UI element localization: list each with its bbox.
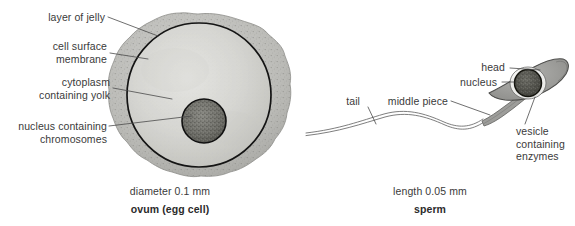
ovum-name-caption: ovum (egg cell) bbox=[95, 203, 245, 216]
label-vesicle-containing-enzymes: vesicle containing enzymes bbox=[516, 125, 575, 163]
label-sperm-nucleus: nucleus bbox=[427, 76, 497, 89]
label-middle-piece: middle piece bbox=[358, 95, 448, 108]
label-head: head bbox=[445, 61, 505, 74]
label-cytoplasm-containing-yolk: cytoplasm containing yolk bbox=[5, 76, 110, 101]
sperm-name-caption: sperm bbox=[355, 203, 505, 216]
diagram-canvas: layer of jelly cell surface membrane cyt… bbox=[0, 0, 575, 226]
sperm-size-caption: length 0.05 mm bbox=[355, 185, 505, 198]
label-nucleus-containing-chromosomes: nucleus containing chromosomes bbox=[0, 120, 107, 145]
sperm-tail bbox=[306, 111, 484, 135]
label-cell-surface-membrane: cell surface membrane bbox=[7, 40, 107, 65]
label-layer-of-jelly: layer of jelly bbox=[10, 11, 105, 24]
ovum-size-caption: diameter 0.1 mm bbox=[95, 185, 245, 198]
label-tail: tail bbox=[310, 95, 360, 108]
